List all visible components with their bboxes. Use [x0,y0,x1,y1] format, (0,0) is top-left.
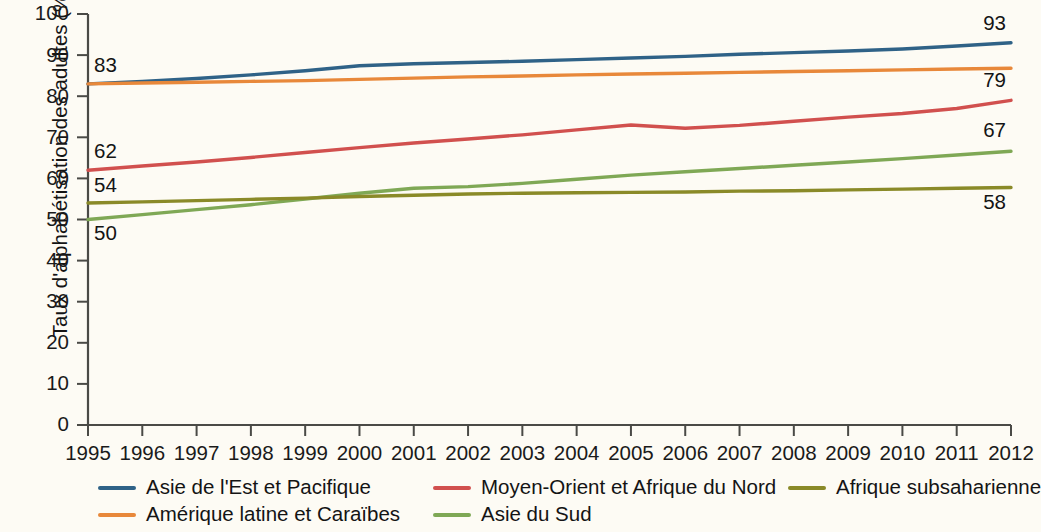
legend-item-label: Moyen-Orient et Afrique du Nord [481,477,776,498]
x-tick-label: 1998 [228,441,274,464]
legend-column: Afrique subsaharienne [788,474,1041,501]
legend-column: Asie de l'Est et PacifiqueAmérique latin… [98,474,400,528]
x-tick-label: 1995 [65,441,111,464]
y-tick-label: 40 [46,248,69,271]
legend-item-label: Afrique subsaharienne [836,477,1041,498]
x-tick-label: 2012 [988,441,1034,464]
x-tick-label: 1997 [174,441,220,464]
y-tick-label: 50 [46,207,69,230]
right-value-label: 58 [983,190,1006,213]
legend-swatch-icon [98,513,136,517]
x-tick-label: 2007 [717,441,763,464]
y-tick-label: 0 [58,412,69,435]
left-value-label: 62 [94,139,117,162]
legend-item[interactable]: Amérique latine et Caraïbes [98,501,400,528]
line-chart-plot: 0102030405060708090100 19951996199719981… [0,0,1039,470]
y-axis-ticks: 0102030405060708090100 [35,1,88,435]
legend-item[interactable]: Moyen-Orient et Afrique du Nord [433,474,776,501]
y-tick-label: 30 [46,289,69,312]
x-tick-label: 2010 [880,441,926,464]
left-value-label: 83 [94,53,117,76]
legend-swatch-icon [98,486,136,490]
x-axis-ticks: 1995199619971998199920002001200220032004… [65,425,1034,464]
right-value-label: 93 [983,11,1006,34]
left-value-label: 54 [94,173,117,196]
y-tick-label: 10 [46,371,69,394]
x-tick-label: 2004 [554,441,600,464]
x-tick-label: 2000 [337,441,383,464]
y-tick-label: 70 [46,125,69,148]
value-annotations: 8362545093796758 [94,11,1006,244]
y-tick-label: 60 [46,166,69,189]
series-lines [88,43,1011,220]
x-tick-label: 1996 [119,441,165,464]
y-tick-label: 80 [46,84,69,107]
legend-item[interactable]: Asie du Sud [433,501,776,528]
legend-swatch-icon [433,486,471,490]
x-tick-label: 2002 [445,441,491,464]
legend-item[interactable]: Afrique subsaharienne [788,474,1041,501]
legend-swatch-icon [433,513,471,517]
y-tick-label: 90 [46,43,69,66]
x-tick-label: 2011 [935,441,979,464]
y-tick-label: 20 [46,330,69,353]
chart-legend: Asie de l'Est et PacifiqueAmérique latin… [88,474,1028,528]
x-tick-label: 2009 [825,441,871,464]
left-value-label: 50 [94,221,117,244]
right-value-label: 79 [983,68,1006,91]
right-value-label: 67 [983,118,1006,141]
x-tick-label: 2006 [662,441,708,464]
legend-column: Moyen-Orient et Afrique du NordAsie du S… [433,474,776,528]
x-tick-label: 2001 [391,441,437,464]
legend-item-label: Amérique latine et Caraïbes [146,504,400,525]
legend-item[interactable]: Asie de l'Est et Pacifique [98,474,400,501]
series-line [88,151,1011,219]
series-line [88,187,1011,203]
x-tick-label: 2005 [608,441,654,464]
legend-item-label: Asie de l'Est et Pacifique [146,477,371,498]
x-tick-label: 2008 [771,441,817,464]
x-tick-label: 2003 [500,441,546,464]
series-line [88,43,1011,84]
x-tick-label: 1999 [282,441,328,464]
legend-item-label: Asie du Sud [481,504,592,525]
legend-swatch-icon [788,486,826,490]
y-tick-label: 100 [35,1,69,24]
